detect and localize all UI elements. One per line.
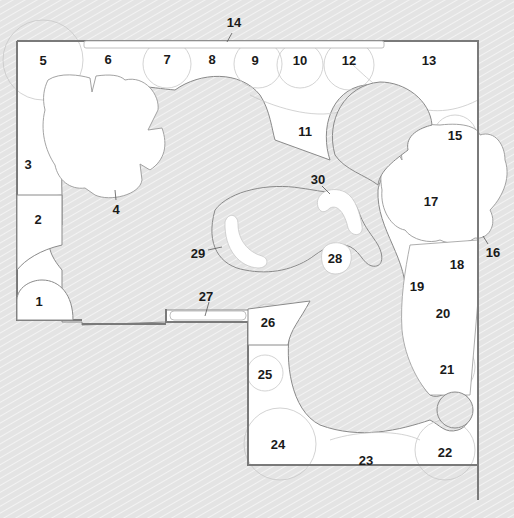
label-5: 5	[39, 54, 46, 67]
label-26: 26	[261, 316, 275, 329]
label-22: 22	[438, 446, 452, 459]
bench-14	[84, 41, 384, 48]
label-1: 1	[35, 295, 42, 308]
label-10: 10	[293, 54, 307, 67]
label-18: 18	[450, 258, 464, 271]
label-3: 3	[24, 158, 31, 171]
label-23: 23	[359, 454, 373, 467]
round-feature	[437, 392, 473, 428]
garden-plan: 1 2 3 4 5 6 7 8 9 10 11 12 13 14 15 16 1…	[0, 0, 514, 518]
label-21: 21	[440, 363, 454, 376]
label-13: 13	[422, 54, 436, 67]
label-19: 19	[410, 280, 424, 293]
label-12: 12	[342, 54, 356, 67]
label-15: 15	[448, 129, 462, 142]
label-17: 17	[424, 195, 438, 208]
label-30: 30	[311, 173, 325, 186]
label-25: 25	[258, 368, 272, 381]
label-14: 14	[227, 16, 241, 29]
label-16: 16	[486, 246, 500, 259]
label-20: 20	[436, 307, 450, 320]
label-7: 7	[163, 53, 170, 66]
garden-plan-drawing	[0, 0, 514, 518]
label-4: 4	[112, 203, 119, 216]
label-2: 2	[34, 213, 41, 226]
label-11: 11	[298, 125, 312, 138]
label-27: 27	[199, 290, 213, 303]
label-24: 24	[271, 438, 285, 451]
label-28: 28	[328, 252, 342, 265]
label-9: 9	[251, 54, 258, 67]
bench-27	[170, 311, 246, 320]
label-29: 29	[191, 247, 205, 260]
label-6: 6	[104, 53, 111, 66]
label-8: 8	[208, 53, 215, 66]
